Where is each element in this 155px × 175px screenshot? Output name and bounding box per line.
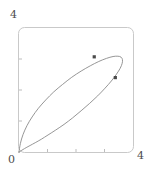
marked-point-2 bbox=[114, 76, 117, 79]
frame-border bbox=[19, 28, 134, 153]
x-axis-ticks bbox=[48, 149, 105, 152]
parametric-plot-figure: 4 0 4 bbox=[0, 0, 155, 175]
plot-canvas bbox=[0, 0, 155, 175]
curve-path bbox=[19, 56, 123, 152]
curve-group bbox=[19, 56, 123, 152]
y-axis-ticks bbox=[19, 59, 22, 121]
plot-frame bbox=[19, 28, 134, 153]
marked-point-1 bbox=[93, 55, 96, 58]
